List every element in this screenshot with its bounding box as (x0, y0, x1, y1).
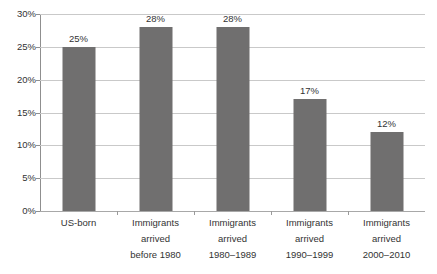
x-axis-label-line: 1990–1999 (271, 247, 348, 263)
bar-value-label: 28% (146, 13, 165, 24)
bar-group: 28% (117, 14, 194, 211)
bar-value-label: 28% (223, 13, 242, 24)
bar-group: 12% (348, 14, 425, 211)
gridline-0-baseline (40, 211, 425, 212)
bar[interactable] (370, 132, 403, 211)
y-tick-label: 15% (2, 108, 36, 118)
x-axis-label-line: US-born (40, 215, 117, 231)
bar-group: 17% (271, 14, 348, 211)
bar-value-label: 17% (300, 85, 319, 96)
x-axis-label-1990-1999: Immigrants arrived 1990–1999 (271, 215, 348, 263)
bar-group: 28% (194, 14, 271, 211)
y-tick-label: 0% (2, 206, 36, 216)
y-tick-label: 5% (2, 173, 36, 183)
y-axis-labels: 30% 25% 20% 15% 10% 5% 0% (0, 0, 36, 274)
x-axis-label-1980-1989: Immigrants arrived 1980–1989 (194, 215, 271, 263)
x-axis-label-line: 2000–2010 (348, 247, 425, 263)
x-axis-label-line: 1980–1989 (194, 247, 271, 263)
bar-value-label: 12% (377, 118, 396, 129)
bar-group: 25% (40, 14, 117, 211)
bar-value-label: 25% (69, 33, 88, 44)
x-axis-label-line: Immigrants (271, 215, 348, 231)
y-tick-label: 30% (2, 9, 36, 19)
plot-area: 25% 28% 28% 17% 12% (40, 14, 425, 211)
x-axis-labels: US-born Immigrants arrived before 1980 I… (40, 215, 425, 273)
bar[interactable] (293, 99, 326, 211)
x-axis-label-line: before 1980 (117, 247, 194, 263)
x-axis-label-us-born: US-born (40, 215, 117, 231)
x-axis-label-line: arrived (194, 231, 271, 247)
x-axis-label-line: Immigrants (117, 215, 194, 231)
bar-chart: 30% 25% 20% 15% 10% 5% 0% 25% 28% (0, 0, 437, 274)
x-axis-label-line: Immigrants (194, 215, 271, 231)
y-tick-label: 10% (2, 140, 36, 150)
x-axis-label-line: arrived (271, 231, 348, 247)
bar[interactable] (62, 47, 95, 211)
y-tick-label: 20% (2, 75, 36, 85)
x-axis-label-line: arrived (348, 231, 425, 247)
bar[interactable] (139, 27, 172, 211)
bar[interactable] (216, 27, 249, 211)
x-axis-label-line: Immigrants (348, 215, 425, 231)
x-axis-label-line: arrived (117, 231, 194, 247)
y-tick-label: 25% (2, 42, 36, 52)
x-axis-label-before-1980: Immigrants arrived before 1980 (117, 215, 194, 263)
x-axis-label-2000-2010: Immigrants arrived 2000–2010 (348, 215, 425, 263)
